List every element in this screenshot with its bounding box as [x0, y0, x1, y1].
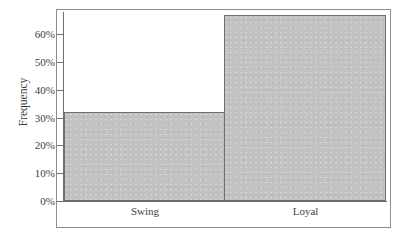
x-tick-label-swing: Swing	[64, 205, 226, 217]
bar-swing[interactable]	[64, 112, 225, 201]
y-tick-label-30: 30%	[35, 113, 55, 124]
bar-loyal[interactable]	[224, 15, 386, 201]
x-tick-label-loyal: Loyal	[225, 205, 386, 217]
plot-area	[64, 13, 386, 201]
x-axis-line	[63, 201, 387, 202]
y-tick-label-0: 0%	[40, 196, 55, 207]
y-tick-label-50: 50%	[35, 57, 55, 68]
y-tick-label-40: 40%	[35, 85, 55, 96]
bar-chart-figure: Frequency 60% 50% 40% 30% 20% 10% 0% Swi…	[0, 0, 406, 242]
y-tick-label-20: 20%	[35, 140, 55, 151]
y-tick-label-10: 10%	[35, 168, 55, 179]
y-tick-label-60: 60%	[35, 29, 55, 40]
y-axis-tick-labels: 60% 50% 40% 30% 20% 10% 0%	[0, 0, 55, 242]
